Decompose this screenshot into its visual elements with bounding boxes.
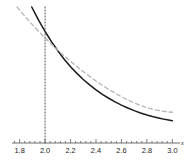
x-tick-label: 2.6 [116, 146, 126, 155]
x-tick-label: 2.0 [40, 146, 50, 155]
x-tick-label: 2.4 [91, 146, 101, 155]
x-tick-labels: 1.82.02.22.42.62.83.0 [14, 146, 177, 155]
x-axis-label: x [180, 139, 184, 146]
x-tick-label: 3.0 [167, 146, 177, 155]
x-tick-label: 1.8 [14, 146, 24, 155]
plot-figure: 1.82.02.22.42.62.83.0 x [0, 0, 193, 164]
x-tick-label: 2.2 [65, 146, 75, 155]
plot-canvas: 1.82.02.22.42.62.83.0 x [0, 0, 193, 164]
x-axis [12, 139, 180, 143]
x-tick-label: 2.8 [142, 146, 152, 155]
series-solid-curve [32, 7, 173, 121]
series-layer [17, 7, 172, 143]
